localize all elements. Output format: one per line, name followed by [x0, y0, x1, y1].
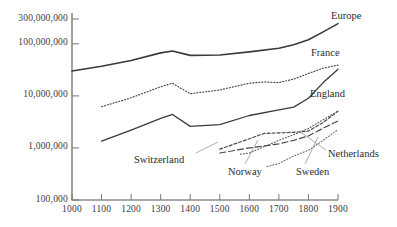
series-line-switzerland	[220, 121, 338, 153]
series-label-france: France	[311, 47, 340, 58]
series-label-sweden: Sweden	[296, 166, 329, 177]
y-tick-label: 100,000,000	[18, 37, 68, 47]
series-line-england	[102, 69, 338, 141]
series-label-norway: Norway	[228, 166, 262, 177]
series-line-france	[102, 65, 338, 107]
x-tick-label: 1900	[318, 204, 358, 214]
series-label-netherlands: Netherlands	[328, 148, 379, 159]
series-label-england: England	[310, 88, 345, 99]
leader-line-switzerland	[196, 142, 218, 153]
series-line-europe	[72, 24, 338, 71]
y-tick-label: 10,000,000	[23, 89, 68, 99]
y-tick-label: 300,000,000	[18, 13, 68, 23]
y-tick-label: 100,000	[36, 194, 68, 204]
series-label-switzerland: Switzerland	[134, 154, 184, 165]
y-tick-label: 1,000,000	[28, 141, 68, 151]
chart-figure: 300,000,000100,000,00010,000,0001,000,00…	[0, 0, 397, 227]
series-label-europe: Europe	[331, 10, 361, 21]
chart-series	[72, 24, 338, 167]
leader-line-norway	[245, 140, 258, 164]
